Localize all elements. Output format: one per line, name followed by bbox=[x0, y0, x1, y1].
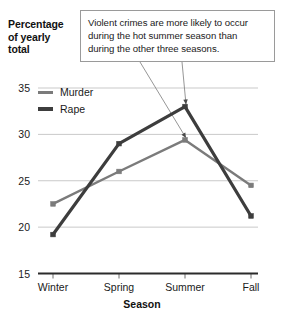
x-tick-label-summer: Summer bbox=[156, 282, 214, 293]
annotation-line-3: during the other three seasons. bbox=[88, 42, 268, 55]
x-axis-title: Season bbox=[0, 298, 284, 310]
y-tick-label-20: 20 bbox=[4, 222, 30, 232]
x-tick-label-fall: Fall bbox=[222, 282, 280, 293]
legend: Murder Rape bbox=[38, 85, 93, 119]
y-tick-label-15: 15 bbox=[4, 269, 30, 279]
y-tick-label-25: 25 bbox=[4, 176, 30, 186]
legend-label-murder: Murder bbox=[60, 86, 93, 98]
line-chart: Percentage of yearly total 1520253035 Wi… bbox=[0, 0, 284, 324]
legend-label-rape: Rape bbox=[60, 103, 85, 115]
annotation-callout: Violent crimes are more likely to occur … bbox=[80, 10, 275, 62]
legend-item-rape: Rape bbox=[38, 102, 93, 116]
legend-swatch-rape-icon bbox=[38, 107, 53, 111]
legend-swatch-murder-icon bbox=[38, 91, 53, 94]
data-series bbox=[53, 107, 251, 235]
y-tick-label-30: 30 bbox=[4, 129, 30, 139]
y-tick-label-35: 35 bbox=[4, 83, 30, 93]
x-tick-label-spring: Spring bbox=[90, 282, 148, 293]
annotation-line-1: Violent crimes are more likely to occur bbox=[88, 16, 268, 29]
annotation-line-2: during the hot summer season than bbox=[88, 29, 268, 42]
legend-item-murder: Murder bbox=[38, 85, 93, 99]
x-tick-label-winter: Winter bbox=[24, 282, 82, 293]
